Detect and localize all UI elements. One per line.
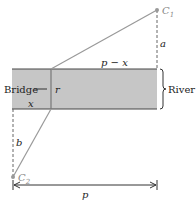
label-a: a	[160, 38, 166, 49]
label-b: b	[16, 137, 22, 148]
river-brace	[160, 69, 166, 109]
label-c2: C2	[18, 172, 31, 186]
label-p: p	[82, 189, 89, 200]
point-c2	[11, 175, 15, 179]
bridge-diagram: C1 C2 a b p − x x r Bridge River p	[0, 0, 196, 202]
label-c1: C1	[162, 5, 174, 19]
label-x: x	[28, 98, 34, 109]
point-c1	[155, 8, 159, 12]
label-p-minus-x: p − x	[101, 57, 128, 68]
label-bridge: Bridge	[4, 84, 38, 95]
label-river: River	[168, 84, 195, 95]
